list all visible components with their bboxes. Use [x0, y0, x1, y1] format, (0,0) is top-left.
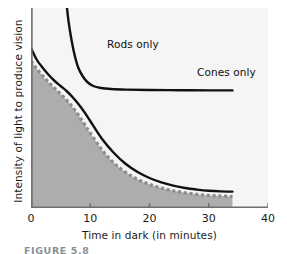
- annotation-cones-only: Cones only: [197, 66, 256, 78]
- x-axis-label: Time in dark (in minutes): [31, 229, 268, 241]
- x-tick-label-10: 10: [83, 212, 97, 225]
- annotation-rods-only: Rods only: [107, 38, 159, 50]
- y-axis-label: Intensity of light to produce vision: [12, 11, 24, 211]
- x-tick-label-30: 30: [202, 212, 216, 225]
- x-tick-label-20: 20: [143, 212, 157, 225]
- x-tick-label-40: 40: [261, 212, 275, 225]
- x-tick-label-0: 0: [28, 212, 35, 225]
- plot-area: Rods only Cones only: [31, 8, 268, 208]
- figure-caption: FIGURE 5.8: [24, 245, 89, 254]
- figure-container: Intensity of light to produce vision Rod…: [0, 0, 287, 254]
